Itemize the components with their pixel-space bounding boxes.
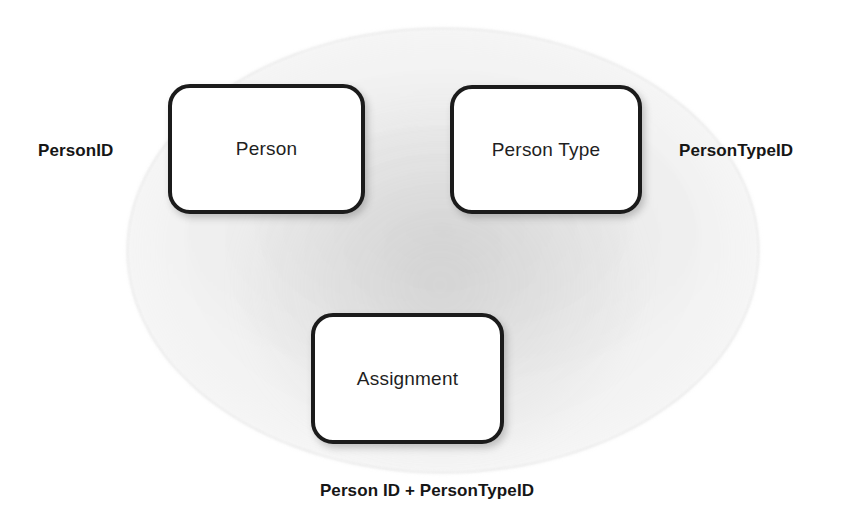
key-label-composite: Person ID + PersonTypeID: [0, 481, 854, 501]
entity-label-person: Person: [236, 138, 297, 160]
key-label-person-id: PersonID: [38, 141, 113, 161]
entity-box-person[interactable]: Person: [168, 84, 365, 214]
diagram-canvas: Person Person Type Assignment PersonID P…: [0, 0, 854, 514]
entity-label-assignment: Assignment: [357, 368, 458, 390]
entity-box-assignment[interactable]: Assignment: [311, 313, 504, 444]
entity-box-person-type[interactable]: Person Type: [450, 85, 642, 214]
key-label-person-type-id: PersonTypeID: [679, 141, 793, 161]
entity-label-person-type: Person Type: [492, 139, 601, 161]
